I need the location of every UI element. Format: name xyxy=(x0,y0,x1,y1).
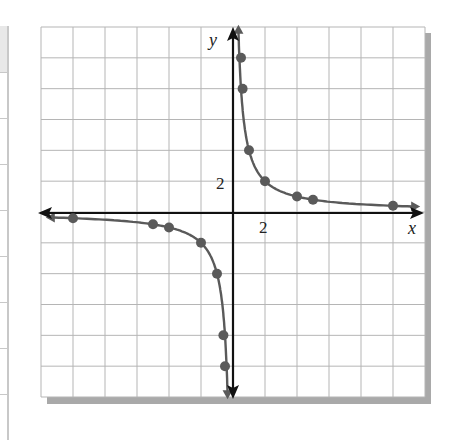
x-tick-label: 2 xyxy=(259,218,268,237)
data-point xyxy=(244,145,254,155)
graph-plot: y x 2 2 xyxy=(0,0,449,440)
x-axis-label: x xyxy=(407,218,416,238)
data-point xyxy=(238,84,248,94)
data-point xyxy=(68,213,78,223)
data-point xyxy=(164,222,174,232)
data-point xyxy=(260,176,270,186)
data-point xyxy=(292,192,302,202)
y-tick-label: 2 xyxy=(216,174,225,193)
y-axis-label: y xyxy=(207,30,217,50)
data-point xyxy=(218,330,228,340)
data-point xyxy=(196,238,206,248)
data-point xyxy=(308,195,318,205)
data-point xyxy=(236,53,246,63)
data-point xyxy=(220,361,230,371)
data-point xyxy=(212,269,222,279)
data-point xyxy=(388,201,398,211)
data-point xyxy=(148,219,158,229)
